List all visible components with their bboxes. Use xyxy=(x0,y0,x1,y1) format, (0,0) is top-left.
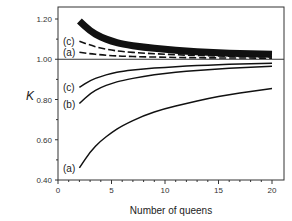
x-tick-label: 20 xyxy=(268,186,277,195)
y-axis: 0.400.600.801.001.20 xyxy=(36,15,58,185)
chart-canvas: 0.400.600.801.001.20 05101520 (c)(a)(c)(… xyxy=(0,0,292,221)
y-axis-title: K xyxy=(26,89,35,103)
x-axis: 05101520 xyxy=(56,180,277,195)
curve-labels: (c)(a)(c)(b)(a) xyxy=(63,36,75,174)
curve-5 xyxy=(79,88,272,167)
x-tick-label: 15 xyxy=(214,186,223,195)
curve-3 xyxy=(79,63,272,87)
x-tick-label: 10 xyxy=(161,186,170,195)
x-tick-label: 5 xyxy=(109,186,114,195)
y-tick-label: 0.40 xyxy=(36,176,52,185)
curve-label: (c) xyxy=(63,36,75,47)
curve-4 xyxy=(79,66,272,103)
y-tick-label: 1.00 xyxy=(36,55,52,64)
x-tick-label: 0 xyxy=(56,186,61,195)
curve-label: (b) xyxy=(63,99,75,110)
x-axis-title: Number of queens xyxy=(130,205,212,216)
curve-label: (a) xyxy=(63,163,75,174)
y-tick-label: 0.60 xyxy=(36,136,52,145)
y-tick-label: 0.80 xyxy=(36,96,52,105)
y-tick-label: 1.20 xyxy=(36,15,52,24)
curve-label: (c) xyxy=(63,82,75,93)
curves xyxy=(79,21,272,168)
curve-label: (a) xyxy=(63,47,75,58)
